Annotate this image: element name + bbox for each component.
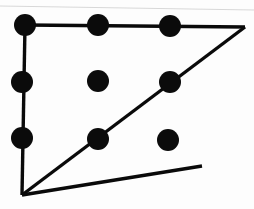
dot-bottom-right (157, 129, 179, 151)
dot-middle-left (11, 71, 33, 93)
dot-bottom-left (11, 127, 33, 149)
edge-top-horizontal (25, 25, 245, 27)
dot-top-right (159, 15, 181, 37)
dot-top-center (87, 14, 109, 36)
dot-middle-center (87, 70, 109, 92)
nine-dots-diagram (0, 0, 254, 209)
figure-canvas (0, 0, 254, 209)
dot-top-left (14, 14, 36, 36)
dot-middle-right (159, 71, 181, 93)
dot-bottom-center (87, 128, 109, 150)
